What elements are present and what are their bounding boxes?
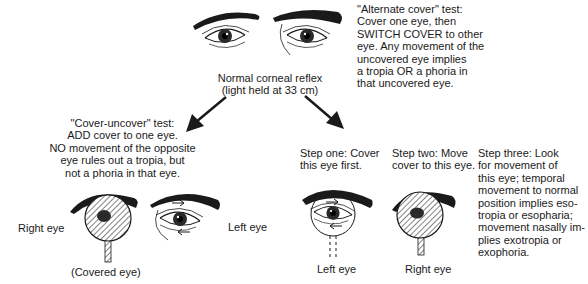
cover-uncover-description: "Cover-uncover" test: ADD cover to one e… [20,117,225,179]
uncovered-left-eye-icon [150,194,220,240]
normal-reflex-label: Normal corneal reflex (light held at 33 … [205,72,335,97]
step-left-eye-label: Left eye [317,263,356,275]
covered-right-eye-icon [70,194,138,262]
top-left-eye-icon [273,10,342,55]
cover-uncover-left-eye-label: Left eye [228,221,267,233]
alternate-cover-description: "Alternate cover" test: Cover one eye, t… [357,3,557,90]
covered-eye-label: (Covered eye) [71,266,141,278]
top-right-eye-icon [193,13,259,48]
step-right-eye-icon [392,192,456,255]
step-right-eye-label: Right eye [405,263,451,275]
step-left-eye-icon [302,190,373,258]
arrow-down-right-icon [305,96,344,129]
cover-uncover-right-eye-label: Right eye [18,222,64,234]
step-three-text: Step three: Look for movement of this ey… [478,147,588,259]
